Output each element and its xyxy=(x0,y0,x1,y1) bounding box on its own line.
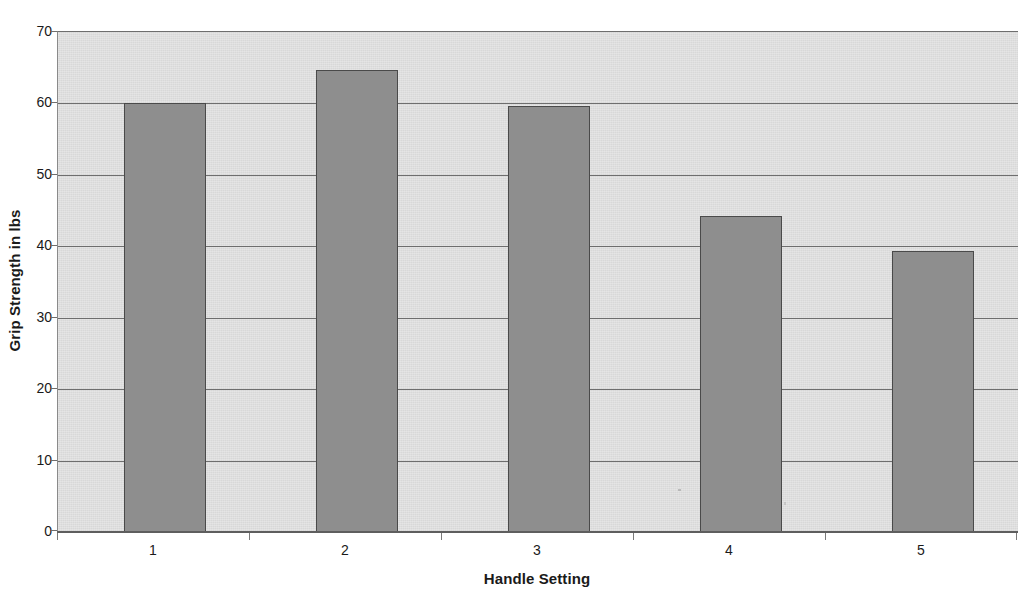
x-axis-tick-labels: 12345 xyxy=(57,542,1017,562)
scan-artifact xyxy=(678,489,681,491)
y-tick-label: 60 xyxy=(36,94,52,110)
x-tick-label: 2 xyxy=(341,542,349,558)
bar xyxy=(124,103,206,532)
y-tick-label: 10 xyxy=(36,452,52,468)
x-axis-tick-marks xyxy=(57,533,1017,540)
x-tick-label: 3 xyxy=(533,542,541,558)
x-tick-mark xyxy=(1016,533,1017,540)
y-axis-title-label: Grip Strength in lbs xyxy=(6,209,23,351)
x-tick-mark xyxy=(633,533,634,540)
y-axis-tick-labels: 010203040506070 xyxy=(28,31,52,531)
x-tick-label: 1 xyxy=(149,542,157,558)
scan-artifact xyxy=(784,502,786,505)
bar xyxy=(508,106,590,532)
y-tick-label: 50 xyxy=(36,166,52,182)
x-tick-mark xyxy=(441,533,442,540)
bar xyxy=(700,216,782,532)
plot-area xyxy=(57,31,1018,532)
x-axis-title: Handle Setting xyxy=(57,570,1017,587)
bar-chart: Grip Strength in lbs 010203040506070 123… xyxy=(0,0,1028,606)
x-tick-label: 5 xyxy=(917,542,925,558)
bar xyxy=(892,251,974,532)
y-tick-label: 70 xyxy=(36,23,52,39)
x-tick-mark xyxy=(249,533,250,540)
x-tick-mark xyxy=(57,533,58,540)
y-axis-title: Grip Strength in lbs xyxy=(0,0,28,560)
y-tick-label: 30 xyxy=(36,309,52,325)
x-tick-label: 4 xyxy=(725,542,733,558)
bar xyxy=(316,70,398,532)
x-tick-mark xyxy=(825,533,826,540)
y-tick-label: 20 xyxy=(36,380,52,396)
y-tick-label: 40 xyxy=(36,237,52,253)
